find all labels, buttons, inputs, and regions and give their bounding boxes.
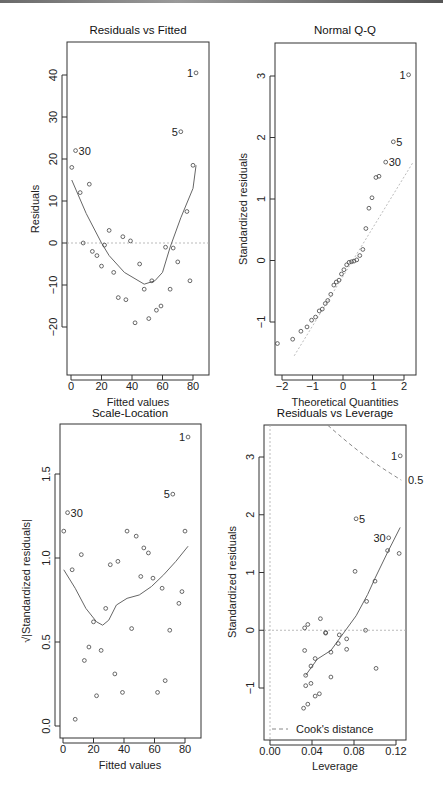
y-tick-label: −1 [255,316,267,329]
y-tick-label: 30 [47,111,59,123]
data-point [121,235,125,239]
data-point [159,304,163,308]
data-point [398,454,402,458]
data-point [74,149,78,153]
data-point [90,250,94,254]
data-point [364,227,368,231]
y-tick-label: 2 [244,512,256,518]
data-point [73,717,77,721]
data-point [384,160,388,164]
x-tick-label: −1 [306,380,319,392]
y-tick-label: 0 [47,240,59,246]
data-point [66,511,70,515]
data-point [299,329,303,333]
x-tick-label: 0.08 [343,745,364,757]
y-axis-title: √|Standardized residuals| [20,519,32,643]
x-tick-label: 2 [401,380,407,392]
x-axis-title: Leverage [312,760,358,772]
data-point [342,268,346,272]
data-point [133,321,137,325]
x-tick-label: 0 [68,380,74,392]
data-point [70,568,74,572]
data-point [151,576,155,580]
data-point [191,163,195,167]
x-tick-label: 40 [126,380,138,392]
x-tick-label: 60 [156,380,168,392]
y-tick-label: 0.5 [40,634,52,649]
y-tick-label: 2 [255,134,267,140]
data-point [92,620,96,624]
data-point [186,435,190,439]
data-point [163,679,167,683]
data-point [134,534,138,538]
data-point [147,551,151,555]
data-point [302,706,306,710]
y-tick-label: 0 [244,627,256,633]
data-point [305,325,309,329]
data-point [147,317,151,321]
x-tick-label: −2 [276,380,289,392]
data-point [303,626,307,630]
x-tick-label: 0.12 [385,745,406,757]
data-point [276,342,280,346]
data-point [142,546,146,550]
plot-frame [275,43,416,375]
data-point [62,529,66,533]
data-point [171,246,175,250]
point-label: 30 [389,156,401,168]
data-point [407,73,411,77]
y-tick-label: 3 [255,73,267,79]
data-point [171,492,175,496]
data-point [353,569,357,573]
data-point [112,271,116,275]
point-label: 30 [71,507,83,519]
data-point [194,71,198,75]
data-point [319,617,323,621]
data-point [313,694,317,698]
data-point [130,627,134,631]
y-axis-title: Standardized residuals [226,526,238,638]
point-label: 1 [391,450,397,462]
x-tick-label: 40 [118,743,130,755]
y-tick-label: 1 [255,196,267,202]
panel-residuals-vs-leverage: Residuals vs Leverage Leverage Standardi… [226,407,423,772]
data-point [374,666,378,670]
y-tick-label: −20 [47,318,59,337]
y-tick-label: 1.0 [40,550,52,565]
chart-title: Residuals vs Fitted [89,24,186,36]
lowess-smooth-line [64,546,188,625]
data-point [180,590,184,594]
point-label: 1 [179,431,185,443]
y-tick-label: 20 [47,153,59,165]
data-point [95,254,99,258]
data-point [188,279,192,283]
x-tick-label: 80 [187,380,199,392]
data-point [99,649,103,653]
data-point [185,210,189,214]
cooks-level-label: 0.5 [408,474,423,486]
data-point [183,529,187,533]
x-tick-label: 20 [87,743,99,755]
data-point [367,206,371,210]
data-point [116,296,120,300]
point-label: 1 [187,67,193,79]
chart-title: Normal Q-Q [314,24,376,36]
data-point [177,601,181,605]
data-point [365,599,369,603]
data-point [304,684,308,688]
panel-normal-qq: Normal Q-Q Theoretical Quantities Standa… [237,24,416,408]
x-tick-label: 0 [340,380,346,392]
data-point [104,607,108,611]
data-point [336,642,340,646]
data-point [370,196,374,200]
data-point [176,260,180,264]
data-point [108,563,112,567]
data-point [125,529,129,533]
data-point [164,245,168,249]
data-point [116,559,120,563]
data-point [82,659,86,663]
y-tick-label: 40 [47,69,59,81]
x-tick-label: 80 [179,743,191,755]
point-label: 5 [396,136,402,148]
data-point [87,182,91,186]
